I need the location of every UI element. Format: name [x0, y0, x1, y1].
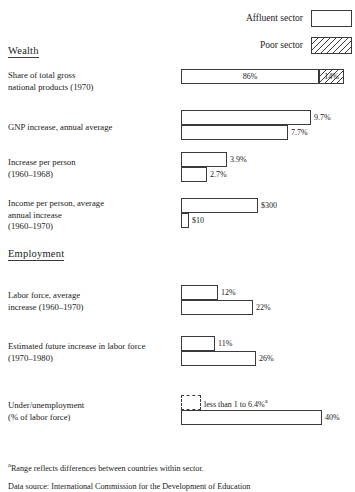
bar-poor-share-gross: 14% [319, 69, 344, 84]
bar-affluent-labor-force [181, 285, 218, 300]
bar-poor-increase-per-person [181, 167, 207, 182]
bars-income-per-person: $300 $10 [181, 198, 277, 228]
bars-share-gross: 86% 14% [181, 69, 344, 84]
affluent-swatch-icon [311, 10, 352, 27]
section-heading-wealth: Wealth [8, 45, 39, 58]
bar-poor-labor-force [181, 300, 253, 315]
bar-value-affluent-labor-force: 12% [221, 288, 236, 297]
bar-value-affluent-increase-per-person: 3.9% [230, 155, 247, 164]
row-label-gnp-increase: GNP increase, annual average [0, 122, 174, 134]
legend-label-poor: Poor sector [260, 40, 303, 50]
bars-future-labor-force: 11% 26% [181, 336, 274, 366]
section-heading-employment: Employment [8, 248, 64, 261]
bar-value-poor-gnp-increase: 7.7% [291, 128, 308, 137]
bar-value-affluent-income-per-person: $300 [261, 201, 277, 210]
bar-affluent-gnp-increase [181, 110, 311, 125]
bar-affluent-increase-per-person [181, 152, 227, 167]
bar-poor-future-labor-force [181, 351, 256, 366]
bars-gnp-increase: 9.7% 7.7% [181, 110, 331, 140]
bar-affluent-under-unemployment [181, 395, 201, 410]
legend-item-affluent: Affluent sector [0, 8, 352, 28]
footnote-a: aRange reflects differences between coun… [8, 459, 204, 474]
bar-value-poor-future-labor-force: 26% [259, 354, 274, 363]
stacked-bar-share-gross: 86% 14% [181, 69, 344, 84]
bar-value-poor-share-gross: 14% [324, 72, 339, 81]
bar-value-poor-increase-per-person: 2.7% [210, 170, 227, 179]
poor-swatch-icon [311, 37, 352, 54]
footnote-marker-a: a [265, 397, 268, 404]
bar-value-poor-income-per-person: $10 [192, 216, 204, 225]
bar-value-affluent-gnp-increase: 9.7% [314, 113, 331, 122]
row-label-labor-force: Labor force, average increase (1960–1970… [0, 290, 174, 313]
bar-value-poor-labor-force: 22% [256, 303, 271, 312]
row-label-under-unemployment: Under/unemployment (% of labor force) [0, 400, 174, 423]
legend-label-affluent: Affluent sector [246, 13, 303, 23]
row-label-share-gross: Share of total gross national products (… [0, 70, 174, 93]
legend: Affluent sector Poor sector [0, 8, 352, 62]
bar-value-poor-under-unemployment: 40% [325, 413, 340, 422]
bar-poor-under-unemployment [181, 410, 322, 425]
bar-value-text-under-unemployment: less than 1 to 6.4% [204, 399, 265, 408]
data-source-note: Data source: International Commission fo… [8, 481, 250, 492]
footnote-a-text: Range reflects differences between count… [11, 464, 204, 473]
row-label-income-per-person: Income per person, average annual increa… [0, 198, 174, 233]
bar-affluent-future-labor-force [181, 336, 215, 351]
bar-poor-gnp-increase [181, 125, 288, 140]
bars-increase-per-person: 3.9% 2.7% [181, 152, 247, 182]
bars-under-unemployment: less than 1 to 6.4%a 40% [181, 395, 340, 425]
row-label-increase-per-person: Increase per person (1960–1968) [0, 157, 174, 180]
bar-poor-income-per-person [181, 213, 189, 228]
row-label-future-labor-force: Estimated future increase in labor force… [0, 341, 174, 364]
bar-affluent-income-per-person [181, 198, 258, 213]
legend-item-poor: Poor sector [0, 35, 352, 55]
bar-value-affluent-under-unemployment: less than 1 to 6.4%a [204, 397, 268, 409]
bar-value-affluent-share-gross: 86% [243, 72, 258, 81]
bar-value-affluent-future-labor-force: 11% [218, 339, 232, 348]
bars-labor-force: 12% 22% [181, 285, 271, 315]
bar-affluent-share-gross: 86% [181, 69, 319, 84]
